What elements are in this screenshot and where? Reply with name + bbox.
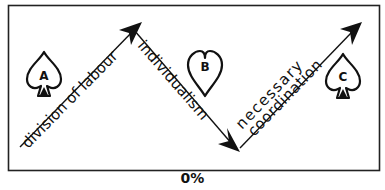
diagram-canvas: division of labour individualism necessa…: [0, 0, 385, 190]
diagram-frame: [9, 6, 380, 171]
spade-c-icon: C: [326, 54, 360, 98]
diagram-caption: 0%: [0, 170, 385, 186]
symbol-letter-c: C: [339, 70, 348, 84]
symbol-letter-a: A: [39, 69, 49, 83]
spade-a-icon: A: [27, 52, 61, 96]
symbol-letter-b: B: [200, 60, 209, 74]
label-division-of-labour: division of labour: [18, 46, 122, 151]
label-individualism: individualism: [134, 37, 213, 124]
